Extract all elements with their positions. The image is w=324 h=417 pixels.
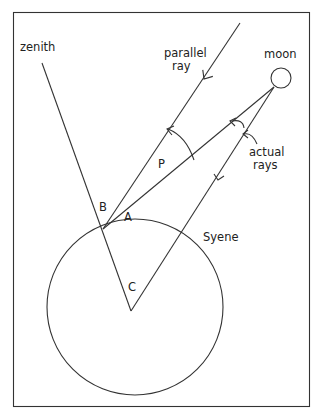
diagram-svg: zenith parallel ray moon actual rays B A… (0, 0, 324, 417)
label-ray: ray (172, 59, 191, 73)
label-parallel: parallel (164, 46, 207, 60)
parallel-ray-arrow-icon (199, 70, 213, 82)
angle-arc-parallel (168, 129, 194, 160)
label-actual: actual (249, 145, 284, 159)
label-zenith: zenith (20, 40, 55, 54)
label-point-b: B (99, 200, 107, 214)
label-moon: moon (264, 47, 297, 61)
label-point-p: P (158, 157, 165, 171)
label-syene: Syene (203, 230, 239, 244)
label-rays: rays (253, 158, 278, 172)
frame-border (14, 13, 310, 407)
label-point-c: C (128, 280, 136, 294)
moon-circle (271, 68, 291, 88)
earth-circle (47, 219, 223, 395)
diagram-canvas: zenith parallel ray moon actual rays B A… (0, 0, 324, 417)
label-point-a: A (124, 210, 132, 224)
zenith-line (42, 63, 131, 311)
actual-ray-to-c (131, 87, 274, 311)
actual-rays-pointer (244, 134, 257, 144)
